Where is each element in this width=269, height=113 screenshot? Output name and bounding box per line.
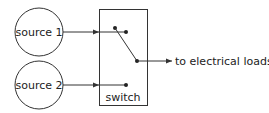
output-label: to electrical loads (175, 55, 269, 68)
source-2-label: source 2 (15, 79, 62, 92)
contact-2-dot (124, 83, 128, 87)
switch-diagram: source 1 source 2 switch to electrical l… (0, 0, 269, 113)
switch-label: switch (105, 91, 140, 104)
switch-node: switch (100, 10, 148, 106)
source-2-node: source 2 (15, 61, 63, 109)
source-1-label: source 1 (15, 26, 62, 39)
diagram-canvas: source 1 source 2 switch to electrical l… (0, 0, 269, 113)
source-1-node: source 1 (15, 8, 63, 56)
contact-1-dot (124, 30, 128, 34)
